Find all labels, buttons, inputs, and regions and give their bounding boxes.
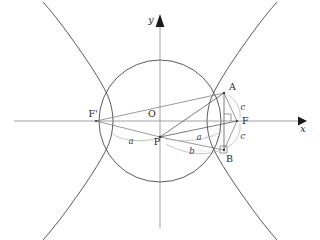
right-angle-mark-at-f	[224, 114, 231, 121]
segment-fprime-to-p	[96, 121, 160, 137]
dot-point-b	[223, 149, 225, 151]
label-point-a: A	[228, 81, 236, 92]
figure-root: y x O F' F P A B a a b c c	[0, 0, 320, 240]
segment-a-to-f	[224, 93, 237, 121]
label-segment-a-right: a	[196, 132, 201, 142]
y-axis-arrowhead	[156, 14, 165, 27]
label-origin: O	[148, 108, 156, 119]
dot-point-a	[223, 92, 225, 94]
label-point-b: B	[226, 153, 233, 164]
x-axis-label: x	[300, 123, 306, 134]
label-focus-left: F'	[88, 108, 97, 119]
label-segment-c-lower: c	[241, 131, 246, 141]
label-focus-right: F	[242, 115, 249, 126]
geometry-canvas: y x O F' F P A B a a b c c	[0, 0, 320, 240]
hyperbola-left-upper-branch	[43, 2, 113, 121]
label-point-p: P	[154, 136, 161, 147]
label-segment-c-upper: c	[241, 102, 246, 112]
brace-arc-a-left	[112, 133, 158, 141]
label-segment-b: b	[189, 146, 194, 156]
y-axis-label: y	[147, 14, 154, 25]
dot-focus-right	[236, 120, 238, 122]
hyperbola-left-lower-branch	[43, 121, 113, 240]
label-segment-a-left: a	[128, 136, 133, 146]
brace-arc-a-right	[166, 131, 222, 141]
dot-focus-left	[95, 120, 97, 122]
